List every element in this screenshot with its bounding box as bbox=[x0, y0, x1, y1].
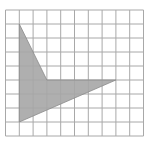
grid-diagram bbox=[0, 0, 151, 147]
arrowhead-polygon bbox=[19, 24, 116, 122]
